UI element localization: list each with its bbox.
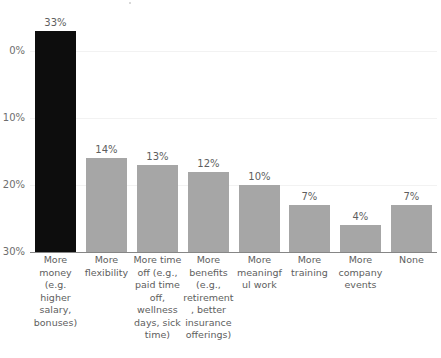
bar-7[interactable] <box>391 205 432 252</box>
y-tick-label-0: 0% <box>9 45 25 56</box>
y-tick-label-20: 20% <box>3 179 25 190</box>
bar-value-4: 10% <box>234 171 285 182</box>
x-label-1: More flexibility <box>81 254 132 279</box>
y-axis: 30% 20% 10% 0% <box>0 0 28 358</box>
bar-6[interactable] <box>340 225 381 252</box>
bar-slot-4: 10% <box>234 0 285 252</box>
bar-value-6: 4% <box>335 211 386 222</box>
bar-slot-7: 7% <box>386 0 437 252</box>
bar-slot-0: 33% <box>30 0 81 252</box>
bar-value-2: 13% <box>132 151 183 162</box>
x-label-7: None <box>386 254 437 267</box>
x-label-4: More meaningful work <box>234 254 285 292</box>
bar-value-7: 7% <box>386 191 437 202</box>
bars-layer: 33% 14% 13% 12% 10% 7% 4% 7% <box>30 0 437 252</box>
bar-3[interactable] <box>188 172 229 252</box>
bar-4[interactable] <box>239 185 280 252</box>
y-tick-label-10: 10% <box>3 112 25 123</box>
x-axis-labels: More money (e.g. higher salary, bonuses)… <box>30 254 437 358</box>
bar-0[interactable] <box>35 31 76 252</box>
bar-slot-5: 7% <box>284 0 335 252</box>
x-label-5: More training <box>284 254 335 279</box>
bar-value-3: 12% <box>183 158 234 169</box>
bar-slot-6: 4% <box>335 0 386 252</box>
bar-value-5: 7% <box>284 191 335 202</box>
bar-5[interactable] <box>289 205 330 252</box>
x-label-6: More company events <box>335 254 386 292</box>
bar-chart: 30% 20% 10% 0% 33% 14% 13% 12% 10% 7% <box>0 0 441 358</box>
bar-value-1: 14% <box>81 144 132 155</box>
bar-1[interactable] <box>86 158 127 252</box>
bar-value-0: 33% <box>30 17 81 28</box>
bar-slot-1: 14% <box>81 0 132 252</box>
x-label-3: More benefits (e.g., retirement, better … <box>183 254 234 342</box>
y-tick-label-30: 30% <box>3 246 25 257</box>
x-label-0: More money (e.g. higher salary, bonuses) <box>30 254 81 329</box>
x-axis-line <box>30 252 437 253</box>
bar-2[interactable] <box>137 165 178 252</box>
bar-slot-3: 12% <box>183 0 234 252</box>
x-label-2: More time off (e.g., paid time off, well… <box>132 254 183 342</box>
bar-slot-2: 13% <box>132 0 183 252</box>
